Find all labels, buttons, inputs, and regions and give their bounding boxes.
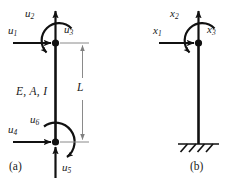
panel-caption-a: (a)	[9, 161, 22, 173]
label-length-L: L	[77, 82, 83, 94]
label-u2: u2	[25, 8, 34, 20]
figure-canvas: u2 u1 u3 E, A, I L u6 u4 u5 (a) x2 x1 x3…	[0, 0, 231, 181]
panel-caption-b: (b)	[190, 161, 203, 173]
label-x3: x3	[207, 24, 216, 36]
label-u1: u1	[8, 25, 17, 37]
label-member-properties: E, A, I	[16, 86, 47, 98]
label-u4: u4	[8, 124, 17, 136]
label-u6: u6	[30, 114, 39, 126]
support-hatching	[181, 144, 214, 152]
node-bottom-a	[52, 138, 59, 145]
node-top-a	[52, 39, 59, 46]
label-u3: u3	[64, 24, 73, 36]
node-top-b	[195, 39, 202, 46]
label-x1: x1	[153, 25, 162, 37]
label-x2: x2	[170, 8, 179, 20]
label-u5: u5	[62, 162, 71, 174]
u6-moment-arc	[44, 123, 75, 157]
